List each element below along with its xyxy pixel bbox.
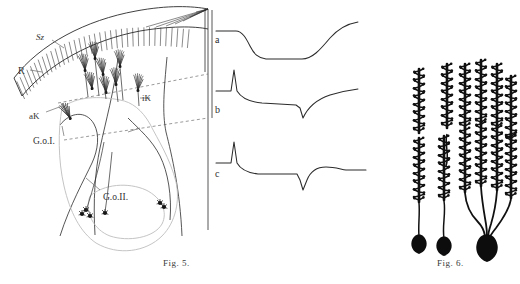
fig6-soma-1	[411, 234, 426, 254]
fig6-cell-1	[411, 68, 426, 255]
fig6-soma-2	[436, 236, 451, 256]
fig6-soma-3	[476, 234, 497, 262]
fig5-caption: Fig. 5.	[163, 258, 190, 268]
fig6-drawing	[0, 0, 520, 284]
figure-plate: Sᴢ R aK iK G.o.I. G.o.II. a b c	[0, 0, 520, 284]
fig6-cell-3	[459, 59, 518, 263]
fig6-cell-2	[436, 63, 453, 257]
fig6-caption: Fig. 6.	[437, 258, 464, 268]
